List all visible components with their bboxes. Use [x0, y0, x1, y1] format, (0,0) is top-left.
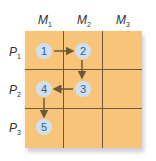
node-5: 5	[36, 119, 52, 135]
node-4: 4	[36, 81, 52, 97]
node-1: 1	[36, 43, 52, 59]
node-2: 2	[75, 43, 91, 59]
node-3: 3	[75, 81, 91, 97]
arrows	[0, 0, 156, 161]
